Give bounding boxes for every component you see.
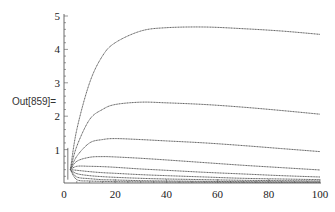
x-tick-label: 20	[110, 188, 122, 200]
x-tick-label: 60	[212, 188, 224, 200]
series-line-curve-4	[70, 157, 320, 170]
series-line-curve-5	[70, 166, 320, 177]
y-tick-label: 2	[55, 110, 61, 122]
line-chart: 12345020406080100	[0, 0, 335, 212]
x-tick-label: 100	[312, 188, 329, 200]
x-tick-label: 80	[263, 188, 275, 200]
y-tick-label: 1	[55, 144, 61, 156]
plot-curves	[68, 27, 320, 182]
y-tick-label: 5	[55, 10, 61, 22]
series-line-curve-6	[70, 170, 320, 180]
x-tick-label: 0	[61, 188, 67, 200]
series-line-curve-3	[70, 139, 320, 170]
y-tick-label: 3	[55, 77, 61, 89]
series-line-curve-2	[70, 102, 320, 170]
x-tick-label: 40	[161, 188, 173, 200]
y-tick-label: 4	[55, 43, 61, 55]
